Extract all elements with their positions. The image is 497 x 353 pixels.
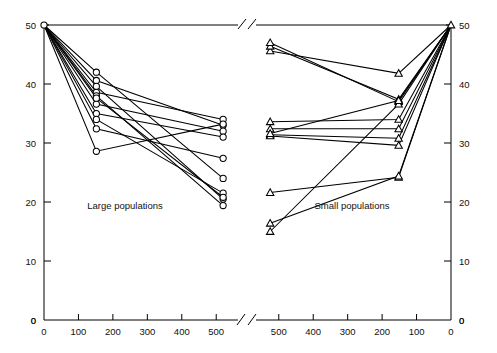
data-point-circle[interactable] (220, 134, 226, 140)
series-line (44, 25, 223, 178)
data-point-circle[interactable] (41, 22, 47, 28)
x-tick-label-left-panel: 500 (208, 326, 224, 337)
x-tick-label-left-panel: 0 (41, 326, 46, 337)
right-panel-caption: Small populations (315, 200, 390, 211)
series-line (44, 25, 223, 158)
data-point-triangle[interactable] (266, 39, 273, 46)
axis-break-top-mark-2[interactable] (248, 19, 256, 29)
x-tick-label-right-panel: 400 (305, 326, 321, 337)
series-line (44, 25, 223, 137)
series-line (44, 25, 223, 197)
data-point-circle[interactable] (93, 95, 99, 101)
data-point-circle[interactable] (93, 116, 99, 122)
y-tick-label-left: 40 (25, 79, 36, 90)
data-point-circle[interactable] (220, 155, 226, 161)
y-tick-label-left: 10 (25, 256, 36, 267)
y-tick-label-right: 20 (459, 197, 470, 208)
x-tick-label-left-panel: 200 (105, 326, 121, 337)
y-tick-label-left: 20 (25, 197, 36, 208)
y-tick-label-right: 30 (459, 138, 470, 149)
chart-canvas: 5050404030302020101000010020030040050050… (0, 0, 497, 353)
origin-zero-left: 0 (31, 315, 36, 326)
x-tick-label-right-panel: 300 (340, 326, 356, 337)
data-point-circle[interactable] (93, 83, 99, 89)
data-point-circle[interactable] (220, 175, 226, 181)
left-panel-caption: Large populations (87, 200, 163, 211)
series-group-left-panel[interactable] (44, 25, 223, 206)
y-tick-label-right: 10 (459, 256, 470, 267)
series-line (270, 25, 451, 129)
data-point-circle[interactable] (220, 194, 226, 200)
data-point-circle[interactable] (220, 202, 226, 208)
data-point-circle[interactable] (93, 101, 99, 107)
y-tick-label-right: 40 (459, 79, 470, 90)
data-point-circle[interactable] (93, 77, 99, 83)
series-line (44, 25, 223, 193)
series-line (270, 25, 451, 145)
x-tick-label-right-panel: 200 (374, 326, 390, 337)
y-tick-label-left: 30 (25, 138, 36, 149)
x-tick-label-left-panel: 100 (71, 326, 87, 337)
data-point-circle[interactable] (93, 148, 99, 154)
x-tick-label-right-panel: 500 (271, 326, 287, 337)
data-point-circle[interactable] (220, 121, 226, 127)
x-tick-label-left-panel: 400 (174, 326, 190, 337)
series-line (270, 25, 451, 122)
axis-break-top-mark-1[interactable] (238, 19, 246, 29)
y-tick-label-right: 50 (459, 20, 470, 31)
x-tick-label-left-panel: 300 (139, 326, 155, 337)
axis-break-bottom-mark-2[interactable] (248, 314, 256, 325)
x-tick-label-right-panel: 100 (409, 326, 425, 337)
series-line (44, 25, 223, 119)
x-tick-label-right-panel: 0 (448, 326, 453, 337)
data-point-circle[interactable] (93, 110, 99, 116)
figure-root: 5050404030302020101000010020030040050050… (0, 0, 497, 353)
origin-zero-right: 0 (459, 315, 464, 326)
data-point-circle[interactable] (93, 126, 99, 132)
data-point-circle[interactable] (93, 69, 99, 75)
y-tick-label-left: 50 (25, 20, 36, 31)
data-point-triangle[interactable] (395, 172, 402, 179)
data-point-circle[interactable] (220, 128, 226, 134)
series-line (44, 25, 223, 125)
axis-break-bottom-mark-1[interactable] (237, 314, 245, 325)
